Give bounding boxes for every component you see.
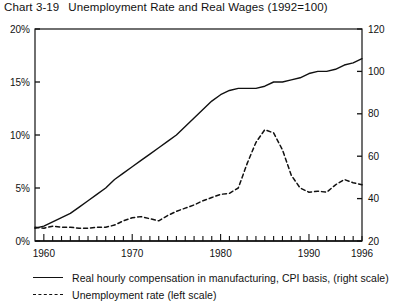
right-axis-tick-label: 120 (368, 24, 385, 35)
legend-item-unemployment-rate: Unemployment rate (left scale) (0, 286, 395, 303)
chart-plot: 0%5%10%15%20%204060801001201960197019801… (0, 0, 395, 268)
left-axis-tick-label: 5% (16, 183, 31, 194)
dashed-line-icon (33, 290, 63, 300)
chart-figure: Chart 3-19Unemployment Rate and Real Wag… (0, 0, 395, 307)
right-axis-tick-label: 40 (368, 193, 380, 204)
x-axis-tick-label: 1990 (298, 248, 321, 259)
left-axis-tick-label: 0% (16, 236, 31, 247)
left-axis-tick-label: 10% (10, 130, 30, 141)
left-axis-tick-label: 20% (10, 24, 30, 35)
right-axis-tick-label: 80 (368, 108, 380, 119)
right-axis-tick-label: 100 (368, 66, 385, 77)
x-axis-tick-label: 1980 (209, 248, 232, 259)
left-axis-tick-label: 15% (10, 77, 30, 88)
x-axis-tick-label: 1970 (121, 248, 144, 259)
legend-label-real-compensation: Real hourly compensation in manufacturin… (72, 272, 389, 284)
series-line-unemployment-rate (35, 130, 362, 229)
solid-line-icon (33, 273, 63, 283)
legend-label-unemployment-rate: Unemployment rate (left scale) (72, 289, 216, 301)
x-axis-tick-label: 1960 (33, 248, 56, 259)
legend-item-real-compensation: Real hourly compensation in manufacturin… (0, 269, 395, 286)
chart-legend: Real hourly compensation in manufacturin… (0, 269, 395, 303)
x-axis-tick-label: 1996 (351, 248, 374, 259)
right-axis-tick-label: 60 (368, 151, 380, 162)
right-axis-tick-label: 20 (368, 236, 380, 247)
